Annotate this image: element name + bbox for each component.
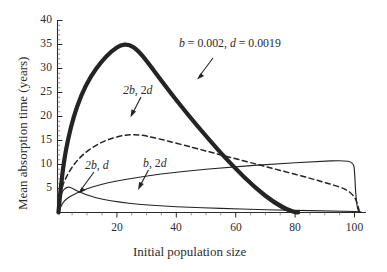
arrow-2b-2d-annotation: [131, 97, 142, 118]
x-axis-title: Initial population size: [133, 245, 246, 258]
y-axis-title: Mean absorption time (years): [16, 57, 29, 210]
arrow-b-2d-annotation: [138, 170, 149, 190]
curve-2b-2d: [58, 135, 360, 213]
annotation-main-d-value: = 0.0019: [236, 36, 281, 50]
annotation-main-b-value: = 0.002,: [185, 36, 230, 50]
annotation-2b-d: 2b, d: [85, 160, 109, 172]
arrow-2b-d-annotation: [78, 172, 94, 194]
annotation-main-params: b = 0.002, d = 0.0019: [179, 38, 281, 50]
annotation-b-2d-sep: , 2: [149, 156, 161, 170]
x-axis-major-ticks: [117, 213, 355, 218]
annotation-2b-2d-sep: , 2: [135, 83, 147, 97]
annotation-2b-2d-second: d: [147, 83, 153, 97]
x-tick-label-20: 20: [101, 222, 133, 234]
arrow-main-annotation: [197, 58, 213, 80]
annotation-2b-2d-first: 2b: [123, 83, 135, 97]
x-tick-label-80: 80: [279, 222, 311, 234]
x-tick-label-60: 60: [220, 222, 252, 234]
annotation-b-2d: b, 2d: [143, 158, 167, 170]
y-tick-label-40: 40: [24, 14, 52, 26]
annotation-2b-2d: 2b, 2d: [123, 85, 153, 97]
annotation-2b-d-second: d: [103, 158, 109, 172]
figure-container: 40 35 30 25 20 15 10 5 20 40 60 80 100 M…: [0, 0, 387, 272]
annotation-b-2d-second: d: [161, 156, 167, 170]
y-tick-label-35: 35: [24, 38, 52, 50]
x-tick-label-100: 100: [337, 222, 372, 234]
curve-b-d-main: [59, 45, 299, 213]
annotation-2b-d-first: 2b: [85, 158, 97, 172]
x-tick-label-40: 40: [160, 222, 192, 234]
curve-2b-d: [58, 187, 362, 212]
